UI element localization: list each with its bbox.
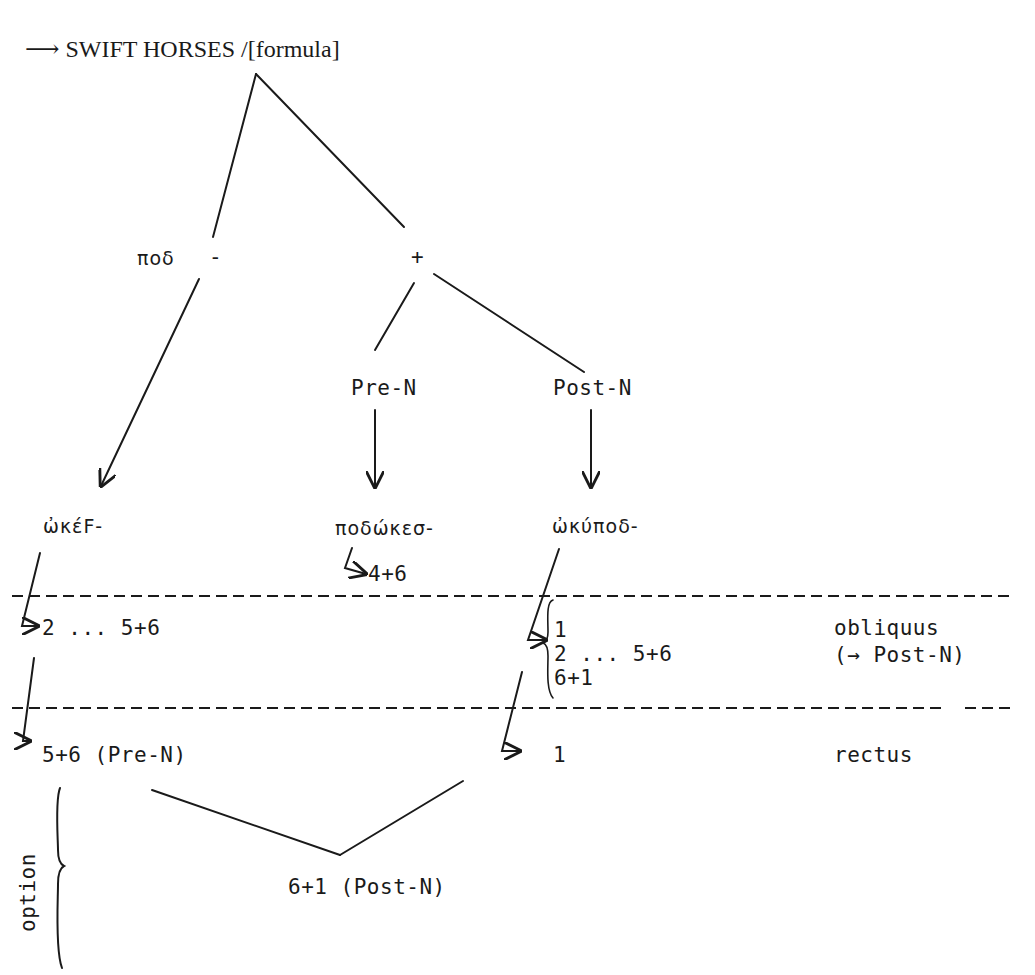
form-okupod: ὠκύποδ- bbox=[552, 517, 639, 536]
branch-pre-n bbox=[375, 283, 414, 350]
diagram-lines bbox=[0, 0, 1035, 975]
obliquus-item: 1 bbox=[554, 618, 672, 642]
hook-podokes bbox=[345, 548, 366, 574]
minus-sign: - bbox=[209, 247, 222, 268]
post-n-label: Post-N bbox=[553, 378, 632, 399]
obliquus-right-list: 1 2 ... 5+6 6+1 bbox=[554, 618, 672, 690]
option-label: option bbox=[18, 853, 39, 932]
pre-n-label: Pre-N bbox=[351, 378, 417, 399]
line-pre-n-option bbox=[152, 790, 340, 855]
plus-sign: + bbox=[411, 247, 424, 268]
podokes-result: 4+6 bbox=[368, 564, 407, 585]
rectus-left: 5+6 (Pre-N) bbox=[42, 745, 187, 766]
hook-obliquus-rectus bbox=[23, 658, 34, 741]
line-post-n-option bbox=[340, 781, 463, 855]
brace-obliquus bbox=[543, 600, 553, 698]
obliquus-item: 2 ... 5+6 bbox=[554, 642, 672, 666]
branch-minus bbox=[213, 74, 256, 237]
option-result: 6+1 (Post-N) bbox=[288, 877, 446, 898]
obliquus-label: obliquus bbox=[834, 618, 939, 639]
arrow-right-icon: ⟶ bbox=[25, 36, 59, 62]
pod-label: ποδ bbox=[137, 249, 175, 268]
title-text: SWIFT HORSES /[formula] bbox=[65, 36, 339, 62]
form-okef: ὠκέϜ- bbox=[43, 517, 103, 536]
rectus-right: 1 bbox=[553, 745, 566, 766]
obliquus-left: 2 ... 5+6 bbox=[42, 618, 160, 639]
branch-post-n bbox=[434, 274, 584, 372]
obliquus-item: 6+1 bbox=[554, 666, 672, 690]
arrow-minus-okef bbox=[101, 279, 199, 486]
rectus-label: rectus bbox=[834, 745, 913, 766]
hook-okef-obliquus bbox=[22, 553, 40, 626]
diagram-title: ⟶ SWIFT HORSES /[formula] bbox=[25, 37, 340, 61]
brace-option bbox=[57, 788, 64, 968]
branch-plus bbox=[256, 74, 404, 227]
form-podokes: ποδώκεσ- bbox=[335, 519, 434, 538]
diagram-canvas: ⟶ SWIFT HORSES /[formula] ποδ - + Pre-N … bbox=[0, 0, 1035, 975]
obliquus-note: (→ Post-N) bbox=[834, 645, 965, 666]
hook-obliquus-rectus-right bbox=[502, 672, 522, 751]
